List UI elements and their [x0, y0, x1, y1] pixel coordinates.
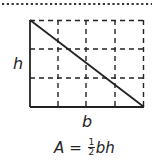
base-label: b — [82, 112, 92, 131]
fraction-numerator: 1 — [88, 138, 94, 147]
formula-equals: = — [69, 139, 82, 157]
height-label: h — [13, 54, 23, 73]
right-triangle — [30, 20, 144, 107]
formula-lhs: A — [54, 139, 64, 157]
fraction-denominator: 2 — [88, 148, 94, 157]
formula-rhs: bh — [96, 139, 115, 157]
area-formula: A = 1 2 bh — [54, 138, 115, 157]
fraction-one-half: 1 2 — [88, 138, 95, 157]
